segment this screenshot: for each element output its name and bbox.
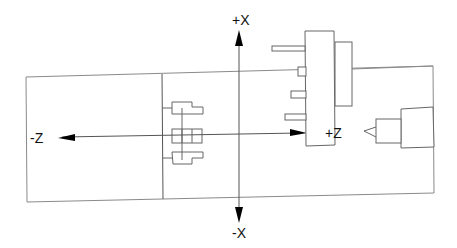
tailstock-center-icon <box>364 127 376 137</box>
minus-z-label: -Z <box>30 131 43 145</box>
plus-z-label: +Z <box>325 126 342 140</box>
x-axis <box>235 30 243 223</box>
chuck-jaws <box>162 102 203 164</box>
minus-z-arrow-icon <box>58 134 75 141</box>
chuck-face-line <box>162 74 163 199</box>
lathe-axes-diagram: +X -X -Z +Z <box>0 0 457 248</box>
tailstock <box>364 107 434 148</box>
plus-x-label: +X <box>232 13 250 27</box>
minus-x-arrow-icon <box>235 207 243 223</box>
plus-x-arrow-icon <box>235 30 243 46</box>
plus-z-arrow-icon <box>290 129 307 136</box>
minus-x-label: -X <box>232 226 246 240</box>
